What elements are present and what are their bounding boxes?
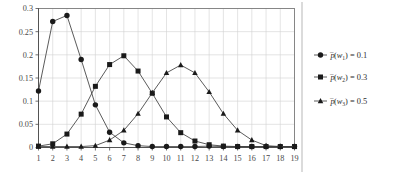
x-tick-label: 4: [79, 154, 83, 163]
x-tick-label: 8: [136, 154, 140, 163]
data-point-marker: [50, 19, 55, 24]
data-point-marker: [164, 144, 169, 149]
data-point-marker: [93, 102, 98, 107]
data-point-marker: [135, 143, 140, 148]
legend-value: ) = 0.3: [345, 73, 367, 82]
data-point-marker: [178, 130, 183, 135]
data-point-marker: [121, 140, 126, 145]
x-tick-label: 11: [177, 154, 185, 163]
x-tick-label: 13: [205, 154, 213, 163]
data-point-marker: [121, 53, 126, 58]
y-tick-label: 0.1: [23, 97, 33, 106]
x-tick-label: 3: [65, 154, 69, 163]
data-point-marker: [150, 144, 155, 149]
data-point-marker: [235, 144, 240, 149]
x-tick-label: 5: [93, 154, 97, 163]
chart-figure: 00.050.10.150.20.250.3 12345678910111213…: [0, 0, 403, 174]
data-point-marker: [192, 144, 197, 149]
y-tick-label: 0.25: [19, 28, 33, 37]
data-point-marker: [64, 13, 69, 18]
data-point-marker: [107, 62, 112, 67]
legend-value: ) = 0.5: [345, 97, 367, 106]
data-point-marker: [64, 132, 69, 137]
y-tick-label: 0.2: [23, 51, 33, 60]
data-point-marker: [192, 139, 197, 144]
x-tick-label: 2: [51, 154, 55, 163]
y-tick-label: 0.05: [19, 120, 33, 129]
x-tick-label: 6: [108, 154, 112, 163]
data-point-marker: [93, 84, 98, 89]
distribution-line-chart: 00.050.10.150.20.250.3 12345678910111213…: [0, 0, 403, 174]
x-tick-label: 19: [290, 154, 298, 163]
data-point-marker: [136, 69, 141, 74]
data-point-marker: [78, 57, 83, 62]
x-tick-label: 10: [162, 154, 170, 163]
x-tick-label: 17: [262, 154, 270, 163]
legend-marker-square-icon: [318, 75, 323, 80]
x-tick-label: 18: [276, 154, 284, 163]
data-point-marker: [207, 142, 212, 147]
x-tick-label: 15: [234, 154, 242, 163]
x-tick-label: 7: [122, 154, 126, 163]
data-point-marker: [79, 112, 84, 117]
x-tick-label: 12: [191, 154, 199, 163]
data-point-marker: [164, 114, 169, 119]
x-tick-label: 14: [219, 154, 227, 163]
y-tick-label: 0: [29, 143, 33, 152]
x-tick-label: 16: [248, 154, 256, 163]
x-tick-label: 9: [150, 154, 154, 163]
y-tick-label: 0.3: [23, 4, 33, 13]
x-tick-label: 1: [36, 154, 40, 163]
data-point-marker: [178, 144, 183, 149]
data-point-marker: [249, 144, 254, 149]
legend-value: ) = 0.1: [345, 51, 367, 60]
data-point-marker: [221, 144, 226, 149]
legend-marker-circle-icon: [318, 52, 323, 57]
data-point-marker: [36, 88, 41, 93]
data-point-marker: [107, 130, 112, 135]
y-tick-label: 0.15: [19, 74, 33, 83]
